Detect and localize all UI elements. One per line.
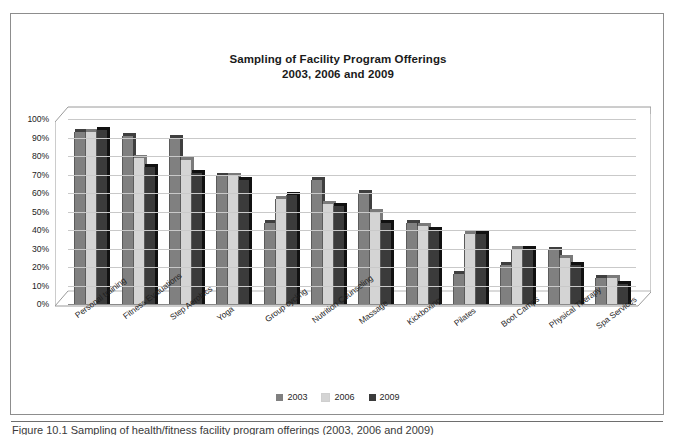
chart-frame: Sampling of Facility Program Offerings 2… [10, 13, 664, 415]
gridline [68, 156, 636, 157]
bar-top-face [334, 203, 344, 206]
chart-legend: 200320062009 [11, 392, 665, 402]
bar-2003 [548, 250, 559, 304]
legend-item-2003[interactable]: 2003 [276, 392, 307, 402]
bar-face [549, 250, 559, 304]
chart-title-line-2: 2003, 2006 and 2009 [11, 67, 665, 82]
bar-2006 [85, 132, 96, 304]
bar-face [181, 160, 191, 304]
gridline [68, 138, 636, 139]
bar-face [381, 223, 391, 304]
bar-face [145, 167, 155, 304]
legend-label: 2009 [380, 392, 400, 402]
y-tick-label: 60% [32, 188, 49, 198]
chart-title-line-1: Sampling of Facility Program Offerings [11, 52, 665, 67]
y-tick-label: 20% [32, 262, 49, 272]
y-tick-label: 90% [32, 133, 49, 143]
legend-item-2009[interactable]: 2009 [369, 392, 400, 402]
legend-swatch-icon [321, 393, 330, 402]
legend-swatch-icon [369, 394, 376, 401]
bar-top-face [418, 223, 428, 226]
bar-top-face [501, 262, 511, 265]
bar-2003 [453, 274, 464, 304]
bar-top-face [454, 271, 464, 274]
bar-face [323, 204, 333, 304]
bar-top-face [239, 177, 249, 180]
gridline [68, 193, 636, 194]
bar-side-face [391, 220, 394, 304]
bar-top-face [265, 220, 275, 223]
bar-face [465, 234, 475, 304]
figure-page: Sampling of Facility Program Offerings 2… [0, 0, 680, 435]
gridline [68, 119, 636, 120]
bar-2006 [369, 212, 380, 305]
bar-2009 [380, 223, 391, 304]
bar-face [418, 226, 428, 304]
bar-top-face [276, 196, 286, 199]
legend-swatch-icon [276, 394, 283, 401]
bar-top-face [381, 220, 391, 223]
gridline [68, 212, 636, 213]
bar-2006 [559, 258, 570, 304]
bar-2003 [406, 223, 417, 304]
gridline [68, 230, 636, 231]
bar-top-face [476, 231, 486, 234]
bar-face [407, 223, 417, 304]
legend-label: 2003 [287, 392, 307, 402]
gridline [68, 175, 636, 176]
bar-2006 [464, 234, 475, 304]
bar-top-face [97, 127, 107, 130]
bar-top-face [145, 164, 155, 167]
bar-top-face [312, 177, 322, 180]
bar-face [454, 274, 464, 304]
bar-2003 [74, 132, 85, 304]
bar-2003 [264, 223, 275, 304]
bar-top-face [123, 133, 133, 136]
bar-2006 [322, 204, 333, 304]
bar-face [607, 278, 617, 304]
bar-face [75, 132, 85, 304]
bar-top-face [618, 281, 628, 284]
bar-2009 [144, 167, 155, 304]
bar-face [512, 249, 522, 305]
bar-top-face [407, 220, 417, 223]
gridline [68, 267, 636, 268]
caption-divider [11, 421, 663, 422]
bar-side-face [202, 170, 205, 304]
bar-top-face [86, 129, 96, 132]
bar-face [560, 258, 570, 304]
chart-title: Sampling of Facility Program Offerings 2… [11, 52, 665, 82]
bar-face [476, 234, 486, 304]
gridline [68, 249, 636, 250]
bar-2006 [417, 226, 428, 304]
bar-top-face [596, 275, 606, 278]
bar-top-face [192, 170, 202, 173]
y-tick-label: 30% [32, 244, 49, 254]
bar-face [276, 199, 286, 304]
bar-top-face [607, 275, 617, 278]
y-tick-label: 80% [32, 151, 49, 161]
bar-top-face [75, 129, 85, 132]
bar-2009 [333, 206, 344, 304]
bar-top-face [323, 201, 333, 204]
bar-side-face [439, 227, 442, 304]
plot-area [55, 102, 651, 312]
figure-caption: Figure 10.1 Sampling of health/fitness f… [12, 424, 662, 435]
bar-face [334, 206, 344, 304]
bar-face [86, 132, 96, 304]
bar-top-face [560, 255, 570, 258]
legend-item-2006[interactable]: 2006 [321, 392, 354, 402]
bar-2006 [511, 249, 522, 305]
bar-face [265, 223, 275, 304]
bar-top-face [465, 231, 475, 234]
bar-2006 [606, 278, 617, 304]
y-tick-label: 100% [27, 114, 49, 124]
bar-top-face [181, 157, 191, 160]
bar-top-face [571, 262, 581, 265]
bar-2006 [275, 199, 286, 304]
bar-face [370, 212, 380, 305]
legend-label: 2006 [334, 392, 354, 402]
gridline [68, 304, 636, 305]
y-tick-label: 50% [32, 207, 49, 217]
y-axis-tick-labels: 100%90%80%70%60%50%40%30%20%10%0% [11, 102, 55, 314]
